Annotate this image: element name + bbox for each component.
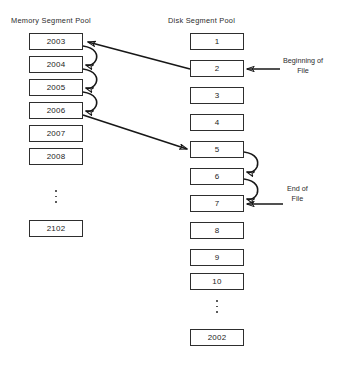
cross-link-arrow-2006-to-disk5 bbox=[83, 115, 187, 149]
segment-pool-diagram: Memory Segment Pool Disk Segment Pool 20… bbox=[0, 0, 352, 365]
cross-link-arrow-disk2-to-2003 bbox=[88, 42, 190, 69]
disk-chain-arrow bbox=[244, 152, 258, 172]
memory-chain-arrow bbox=[83, 69, 97, 88]
memory-chain-arrow bbox=[83, 92, 97, 111]
link-arrows-overlay bbox=[0, 0, 352, 365]
disk-chain-arrow bbox=[244, 179, 258, 199]
memory-chain-arrow bbox=[83, 46, 97, 65]
